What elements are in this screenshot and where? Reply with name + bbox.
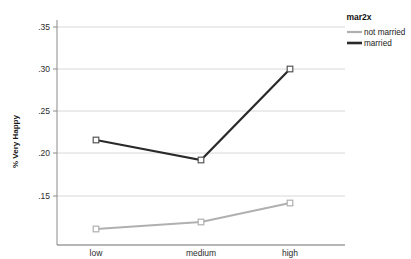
data-point-marker: [93, 226, 99, 232]
legend-item-not-married[interactable]: not married: [347, 28, 406, 37]
series-not-married: [93, 200, 293, 232]
data-point-marker: [198, 219, 204, 225]
legend-label-not-married: not married: [364, 28, 406, 37]
chart-container: .35 .30 .25 .20 .15 % Very Happy low med…: [0, 0, 411, 259]
legend-title: mar2x: [346, 12, 371, 22]
y-axis-title: % Very Happy: [11, 115, 20, 168]
y-axis-tick-label-035: .35: [38, 22, 50, 32]
legend-label-married: married: [364, 39, 392, 48]
series-line-married: [96, 69, 290, 160]
legend: mar2x not married married: [346, 12, 405, 48]
data-point-marker: [287, 200, 293, 206]
y-axis-tick-label-020: .20: [38, 148, 50, 158]
data-point-marker: [287, 66, 293, 72]
y-axis-tick-label-030: .30: [38, 64, 50, 74]
line-chart: .35 .30 .25 .20 .15 % Very Happy low med…: [0, 0, 411, 259]
y-tick-marks: [53, 27, 57, 196]
legend-item-married[interactable]: married: [347, 39, 392, 48]
x-axis-tick-label-medium: medium: [186, 248, 216, 258]
x-axis-tick-label-high: high: [282, 248, 298, 258]
y-axis-tick-label-015: .15: [38, 191, 50, 201]
series-married: [93, 66, 293, 163]
gridlines: [57, 27, 345, 196]
data-point-marker: [198, 157, 204, 163]
x-axis-tick-label-low: low: [90, 248, 104, 258]
y-axis-tick-label-025: .25: [38, 106, 50, 116]
series-line-not-married: [96, 203, 290, 229]
data-point-marker: [93, 137, 99, 143]
